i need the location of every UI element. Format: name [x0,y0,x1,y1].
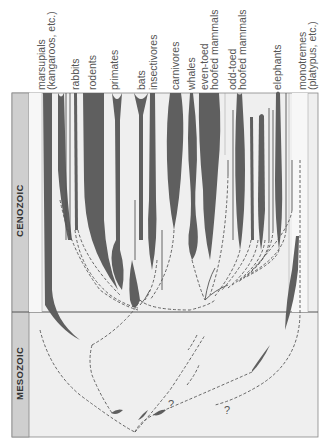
phylogenetic-tree [0,0,326,440]
era-label-mesozoic: MESOZOIC [14,347,25,400]
uncertain-mark: ? [168,398,174,410]
uncertain-mark: ? [224,404,230,416]
mammal-evolution-diagram: marsupials (kangaroos, etc.) rabbits rod… [0,0,326,440]
diagram-panel [12,93,318,437]
era-label-cenozoic: CENOZOIC [14,184,25,237]
